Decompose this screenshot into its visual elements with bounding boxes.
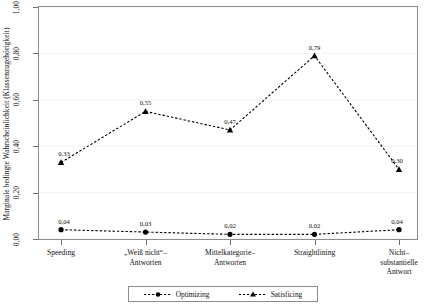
chart-figure: Marginale bedingte Wahrscheinlichkeit (K…: [0, 0, 428, 307]
x-tick-label-line: Antwort: [344, 267, 428, 277]
data-point-label: 0,79: [295, 44, 335, 52]
data-point-label: 0,33: [44, 150, 84, 158]
x-tick-mark: [146, 240, 147, 245]
y-tick-mark: [33, 239, 38, 240]
x-tick-mark: [230, 240, 231, 245]
x-tick-label-line: Antworten: [175, 258, 285, 268]
triangle-marker-icon: [239, 290, 267, 299]
y-tick-label: 0,40: [12, 130, 21, 162]
y-tick-label: 0,20: [12, 177, 21, 209]
data-point-label: 0,04: [44, 218, 84, 226]
data-point-label: 0,02: [210, 222, 250, 230]
circle-marker-icon: [144, 290, 172, 299]
legend-label-optimizing: Optimizing: [176, 290, 210, 299]
y-tick-mark: [33, 193, 38, 194]
x-tick-mark: [61, 240, 62, 245]
legend-label-satisficing: Satisficing: [271, 290, 303, 299]
y-tick-mark: [33, 7, 38, 8]
chart-legend: Optimizing Satisficing: [128, 286, 318, 302]
x-tick-label-4: Nicht–substantielleAntwort: [344, 248, 428, 277]
data-point-label: 0,30: [377, 157, 417, 165]
x-tick-label-line: substantielle: [344, 258, 428, 268]
data-point-label: 0,03: [126, 220, 166, 228]
x-tick-mark: [315, 240, 316, 245]
data-point-label: 0,02: [295, 222, 335, 230]
legend-entry-satisficing[interactable]: Satisficing: [239, 290, 303, 299]
data-point-label: 0,55: [126, 99, 166, 107]
x-tick-label-line: Nicht–: [344, 248, 428, 258]
y-tick-label: 0,80: [12, 37, 21, 69]
x-tick-mark: [399, 240, 400, 245]
data-point-label: 0,04: [377, 218, 417, 226]
legend-entry-optimizing[interactable]: Optimizing: [144, 290, 210, 299]
y-tick-mark: [33, 100, 38, 101]
y-tick-mark: [33, 53, 38, 54]
y-tick-label: 1,00: [12, 0, 21, 23]
y-tick-label: 0,60: [12, 84, 21, 116]
y-tick-mark: [33, 146, 38, 147]
data-point-label: 0,47: [210, 118, 250, 126]
